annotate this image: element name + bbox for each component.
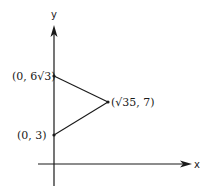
point-c-marker: [52, 133, 55, 136]
point-c-label: (0, 3): [17, 129, 47, 142]
segment-b-c: [54, 102, 108, 135]
point-b-marker: [106, 100, 109, 103]
point-a-label: (0, 6√3): [12, 70, 56, 83]
y-axis-label: y: [51, 9, 57, 20]
segment-a-b: [54, 76, 108, 102]
point-b-label: (√35, 7): [111, 96, 155, 109]
x-axis-label: x: [194, 159, 200, 170]
triangle-diagram: y x (0, 6√3) (√35, 7) (0, 3): [0, 0, 209, 196]
